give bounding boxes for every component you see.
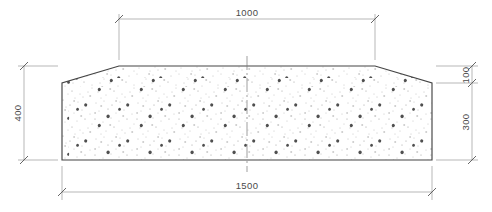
dimension-top-label: 1000	[236, 7, 259, 18]
dimension-bottom-label: 1500	[236, 180, 259, 191]
dimension-left-label: 400	[12, 104, 23, 121]
concrete-section	[60, 60, 457, 191]
dimension-right-lower	[436, 83, 478, 164]
dimension-right-lower-label: 300	[460, 113, 471, 130]
drawing-canvas: 1000 1500 400 100 300	[0, 0, 492, 212]
technical-drawing-svg: 1000 1500 400 100 300	[0, 0, 492, 212]
dimension-right-upper-label: 100	[460, 66, 471, 83]
dimension-left	[18, 62, 58, 164]
concrete-hatch-fill	[60, 60, 457, 191]
dimension-top	[115, 14, 379, 60]
